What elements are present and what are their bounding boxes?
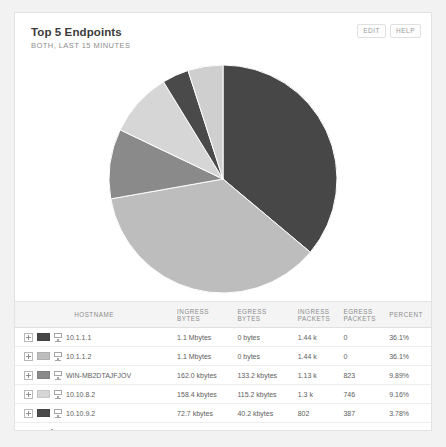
column-header-line1: EGRESS [343, 308, 385, 315]
series-color-swatch [37, 409, 50, 417]
cell-hostname: 10.10.8.2 [15, 385, 173, 404]
cell-egress-bytes: 115.2 kbytes [233, 385, 293, 404]
table-row[interactable]: 10.10.8.2158.4 kbytes115.2 kbytes1.3 k74… [15, 385, 431, 404]
cell-ingress-packets: 799 [294, 423, 340, 432]
widget-header: Top 5 Endpoints BOTH, LAST 15 MINUTES ED… [15, 13, 431, 57]
table-body: 10.1.1.11.1 Mbytes0 bytes1.44 k036.1%10.… [15, 328, 431, 432]
cell-hostname: Remaining traffic [15, 423, 173, 432]
cell-ingress-packets: 802 [294, 404, 340, 423]
endpoints-table-container: HOSTNAME INGRESS BYTES EGRESS BYTES INGR… [15, 301, 431, 431]
expand-plus-icon[interactable] [24, 352, 33, 361]
cell-hostname: 10.1.1.1 [15, 328, 173, 347]
column-header-line1: HOSTNAME [15, 311, 173, 318]
remaining-traffic-label: Remaining traffic [61, 429, 113, 432]
cell-ingress-packets: 1.3 k [294, 385, 340, 404]
cell-ingress-bytes: 162.0 kbytes [173, 366, 233, 385]
expand-plus-icon[interactable] [24, 333, 33, 342]
pie-chart-wrapper [15, 63, 431, 295]
column-header-line2: PACKETS [343, 315, 385, 322]
series-color-swatch [37, 333, 50, 341]
column-header-line1: PERCENT [389, 311, 431, 318]
column-header-line2: BYTES [177, 315, 233, 322]
column-header-line2: BYTES [237, 315, 293, 322]
edit-button[interactable]: EDIT [357, 24, 386, 38]
cell-egress-packets: 464 [339, 423, 385, 432]
host-icon [54, 371, 62, 380]
hostname-label[interactable]: 10.1.1.1 [66, 334, 91, 341]
cell-percent: 9.89% [385, 366, 431, 385]
widget-subtitle: BOTH, LAST 15 MINUTES [31, 41, 419, 50]
hostname-label[interactable]: 10.10.8.2 [66, 391, 95, 398]
remaining-traffic-cell-content: Remaining traffic [15, 428, 173, 431]
column-header-line1: INGRESS [177, 308, 233, 315]
expand-plus-icon[interactable] [24, 371, 33, 380]
hostname-cell-content: 10.10.9.2 [15, 409, 173, 418]
hostname-cell-content: 10.1.1.2 [15, 352, 173, 361]
table-row[interactable]: WIN-MB2DTAJFJOV162.0 kbytes133.2 kbytes1… [15, 366, 431, 385]
table-header: HOSTNAME INGRESS BYTES EGRESS BYTES INGR… [15, 302, 431, 328]
table-row[interactable]: 10.10.9.272.7 kbytes40.2 kbytes8023873.7… [15, 404, 431, 423]
cell-egress-packets: 387 [339, 404, 385, 423]
cell-hostname: WIN-MB2DTAJFJOV [15, 366, 173, 385]
column-header-line2: PACKETS [298, 315, 340, 322]
expand-plus-icon[interactable] [24, 409, 33, 418]
cell-egress-bytes: 40.2 kbytes [233, 404, 293, 423]
cell-ingress-bytes: 158.4 kbytes [173, 385, 233, 404]
cell-percent: 36.1% [385, 328, 431, 347]
cell-egress-bytes: 133.2 kbytes [233, 366, 293, 385]
cell-egress-packets: 823 [339, 366, 385, 385]
cell-ingress-bytes: 90.0 kbytes [173, 423, 233, 432]
column-header-ingress-packets[interactable]: INGRESS PACKETS [294, 302, 340, 328]
series-color-swatch [37, 371, 50, 379]
series-color-swatch [37, 352, 50, 360]
cell-ingress-packets: 1.13 k [294, 366, 340, 385]
cell-hostname: 10.10.9.2 [15, 404, 173, 423]
hostname-label[interactable]: 10.1.1.2 [66, 353, 91, 360]
column-header-line1: EGRESS [237, 308, 293, 315]
cell-ingress-bytes: 72.7 kbytes [173, 404, 233, 423]
pie-chart[interactable] [108, 63, 338, 295]
column-header-egress-packets[interactable]: EGRESS PACKETS [339, 302, 385, 328]
endpoints-table: HOSTNAME INGRESS BYTES EGRESS BYTES INGR… [15, 301, 431, 431]
host-icon [54, 333, 62, 342]
host-icon [54, 409, 62, 418]
cell-percent: 36.1% [385, 347, 431, 366]
cell-egress-packets: 0 [339, 328, 385, 347]
pie-chart-area [15, 57, 431, 309]
table-row[interactable]: 10.1.1.21.1 Mbytes0 bytes1.44 k036.1% [15, 347, 431, 366]
cell-egress-bytes: 0 bytes [233, 347, 293, 366]
cell-egress-packets: 0 [339, 347, 385, 366]
cell-percent: 4.96% [385, 423, 431, 432]
hostname-label[interactable]: WIN-MB2DTAJFJOV [66, 372, 131, 379]
top-endpoints-widget: Top 5 Endpoints BOTH, LAST 15 MINUTES ED… [14, 12, 432, 431]
table-header-row: HOSTNAME INGRESS BYTES EGRESS BYTES INGR… [15, 302, 431, 328]
help-button[interactable]: HELP [390, 24, 421, 38]
cell-percent: 9.16% [385, 385, 431, 404]
column-header-egress-bytes[interactable]: EGRESS BYTES [233, 302, 293, 328]
bar-chart-icon [48, 428, 57, 431]
column-header-percent[interactable]: PERCENT [385, 302, 431, 328]
cell-percent: 3.78% [385, 404, 431, 423]
cell-ingress-bytes: 1.1 Mbytes [173, 328, 233, 347]
cell-hostname: 10.1.1.2 [15, 347, 173, 366]
table-row[interactable]: Remaining traffic90.0 kbytes58.2 kbytes7… [15, 423, 431, 432]
table-row[interactable]: 10.1.1.11.1 Mbytes0 bytes1.44 k036.1% [15, 328, 431, 347]
hostname-label[interactable]: 10.10.9.2 [66, 410, 95, 417]
cell-egress-bytes: 0 bytes [233, 328, 293, 347]
host-icon [54, 390, 62, 399]
hostname-cell-content: 10.10.8.2 [15, 390, 173, 399]
cell-ingress-bytes: 1.1 Mbytes [173, 347, 233, 366]
column-header-ingress-bytes[interactable]: INGRESS BYTES [173, 302, 233, 328]
column-header-hostname[interactable]: HOSTNAME [15, 302, 173, 328]
cell-ingress-packets: 1.44 k [294, 347, 340, 366]
series-color-swatch [37, 390, 50, 398]
column-header-line1: INGRESS [298, 308, 340, 315]
hostname-cell-content: WIN-MB2DTAJFJOV [15, 371, 173, 380]
expand-plus-icon[interactable] [24, 390, 33, 399]
hostname-cell-content: 10.1.1.1 [15, 333, 173, 342]
host-icon [54, 352, 62, 361]
cell-ingress-packets: 1.44 k [294, 328, 340, 347]
cell-egress-packets: 746 [339, 385, 385, 404]
cell-egress-bytes: 58.2 kbytes [233, 423, 293, 432]
header-actions: EDIT HELP [357, 24, 421, 38]
